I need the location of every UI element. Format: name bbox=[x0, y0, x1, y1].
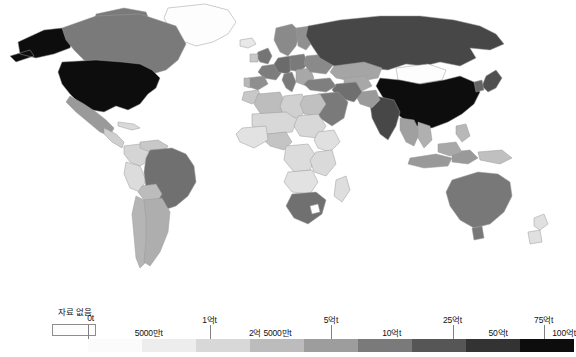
legend-swatch-3 bbox=[250, 339, 304, 352]
region-indonesia-1[interactable] bbox=[408, 154, 452, 168]
legend-segment-label-3: 50억t bbox=[489, 326, 508, 338]
region-angola-zambia[interactable] bbox=[284, 170, 318, 194]
region-new-guinea[interactable] bbox=[478, 150, 512, 164]
region-iceland[interactable] bbox=[240, 38, 256, 48]
legend-tick-label-0: 0t bbox=[87, 313, 94, 323]
map-area[interactable] bbox=[0, 0, 576, 295]
world-choropleth-figure: 자료 없음 0t1억t5억t25억t75억t5000만t2억 5000만t10억… bbox=[0, 0, 576, 357]
legend-swatch-5 bbox=[358, 339, 412, 352]
legend-swatch-2 bbox=[196, 339, 250, 352]
region-south-africa[interactable] bbox=[286, 192, 326, 224]
region-ireland[interactable] bbox=[250, 54, 258, 62]
region-australia[interactable] bbox=[446, 172, 512, 240]
region-new-zealand[interactable] bbox=[528, 214, 548, 244]
region-vietnam[interactable] bbox=[418, 122, 432, 148]
region-philippines[interactable] bbox=[456, 124, 470, 142]
legend-tick-label-4: 75억t bbox=[534, 313, 553, 325]
map-landmasses bbox=[10, 4, 548, 268]
region-united-kingdom[interactable] bbox=[256, 48, 272, 64]
legend-swatch-0 bbox=[88, 339, 142, 352]
legend-swatch-7 bbox=[466, 339, 520, 352]
region-portugal[interactable] bbox=[244, 78, 250, 88]
legend-scale-group: 0t1억t5억t25억t75억t5000만t2억 5000만t10억t50억t1… bbox=[88, 295, 574, 357]
region-cuba[interactable] bbox=[118, 122, 140, 130]
region-turkey[interactable] bbox=[304, 78, 336, 92]
map-legend: 자료 없음 0t1억t5억t25억t75억t5000만t2억 5000만t10억… bbox=[0, 295, 576, 357]
region-lesotho[interactable] bbox=[310, 204, 320, 214]
region-russia[interactable] bbox=[306, 16, 504, 72]
region-argentina[interactable] bbox=[144, 198, 170, 266]
legend-tick-label-2: 5억t bbox=[324, 313, 339, 325]
legend-swatch-8 bbox=[520, 339, 574, 352]
legend-segment-label-0: 5000만t bbox=[135, 326, 163, 338]
legend-segment-label-2: 10억t bbox=[382, 326, 401, 338]
region-madagascar[interactable] bbox=[334, 176, 350, 202]
legend-segment-label-4: 100억t bbox=[552, 326, 576, 338]
region-west-africa[interactable] bbox=[236, 126, 268, 148]
legend-color-bar bbox=[88, 339, 574, 352]
legend-segment-label-1: 2억 5000만t bbox=[249, 326, 292, 338]
legend-swatch-1 bbox=[142, 339, 196, 352]
legend-swatch-4 bbox=[304, 339, 358, 352]
legend-tick-label-1: 1억t bbox=[202, 313, 217, 325]
legend-tick-label-3: 25억t bbox=[443, 313, 462, 325]
legend-swatch-6 bbox=[412, 339, 466, 352]
region-central-america[interactable] bbox=[104, 128, 124, 148]
region-korea[interactable] bbox=[474, 80, 484, 92]
region-italy[interactable] bbox=[282, 72, 296, 92]
region-japan[interactable] bbox=[482, 70, 502, 92]
region-ethiopia[interactable] bbox=[314, 130, 340, 152]
world-map-svg[interactable] bbox=[0, 0, 576, 295]
